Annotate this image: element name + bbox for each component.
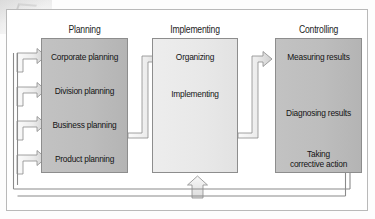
node-corporate-planning: Corporate planning <box>47 52 122 62</box>
connector-implementing-to-controlling <box>238 52 272 139</box>
diagram-canvas: Planning Corporate planning Division pla… <box>0 0 375 219</box>
node-division-planning: Division planning <box>47 86 122 96</box>
column-header-implementing: Implementing <box>158 24 232 35</box>
node-product-planning: Product planning <box>47 154 122 164</box>
column-box-planning: Corporate planning Division planning Bus… <box>41 38 128 173</box>
column-box-controlling: Measuring results Diagnosing results Tak… <box>275 38 362 173</box>
node-organizing: Organizing <box>158 52 232 62</box>
node-implementing: Implementing <box>158 89 232 99</box>
column-header-planning: Planning <box>47 24 122 35</box>
feedback-arrow-into-implementing <box>188 176 208 198</box>
node-business-planning: Business planning <box>47 120 122 130</box>
column-box-implementing: Organizing Implementing <box>152 38 238 173</box>
node-taking-corrective-action: Taking corrective action <box>281 149 356 169</box>
column-header-controlling: Controlling <box>281 24 356 35</box>
node-measuring-results: Measuring results <box>281 52 356 62</box>
node-diagnosing-results: Diagnosing results <box>281 108 356 118</box>
